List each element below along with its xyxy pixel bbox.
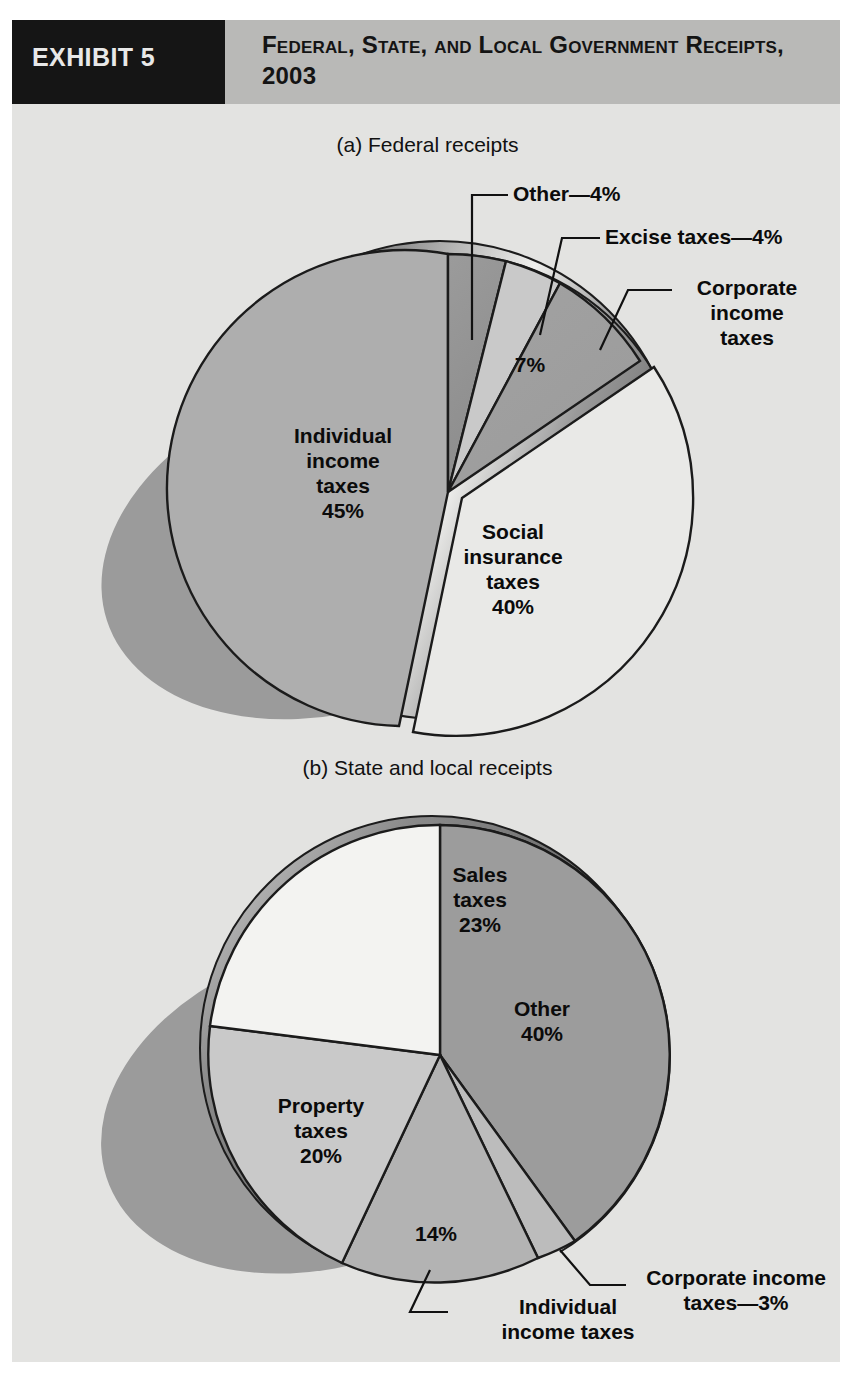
chart-b-label-individual-income-taxes: Individual income taxes bbox=[448, 1294, 688, 1344]
chart-b-caption: (b) State and local receipts bbox=[0, 756, 855, 780]
chart-a-label-social-insurance-taxes: Social insurance taxes 40% bbox=[418, 519, 608, 619]
exhibit-number-label: EXHIBIT 5 bbox=[32, 43, 155, 72]
chart-b-label-property-taxes: Property taxes 20% bbox=[231, 1093, 411, 1168]
chart-b-label-other: Other 40% bbox=[452, 996, 632, 1046]
chart-a-label-corporate-percent: 7% bbox=[500, 352, 560, 377]
chart-b-label-sales-taxes: Sales taxes 23% bbox=[390, 862, 570, 937]
chart-a-label-individual-income-taxes: Individual income taxes 45% bbox=[248, 423, 438, 523]
chart-b-label-individual-percent: 14% bbox=[396, 1221, 476, 1246]
chart-a-label-excise-taxes: Excise taxes—4% bbox=[605, 224, 782, 249]
chart-a-label-corporate-income-taxes: Corporate income taxes bbox=[672, 275, 822, 350]
chart-a-caption: (a) Federal receipts bbox=[0, 133, 855, 157]
chart-a-label-other: Other—4% bbox=[513, 181, 620, 206]
exhibit-title: Federal, State, and Local Government Rec… bbox=[262, 29, 822, 91]
exhibit-page: EXHIBIT 5 Federal, State, and Local Gove… bbox=[0, 0, 855, 1375]
